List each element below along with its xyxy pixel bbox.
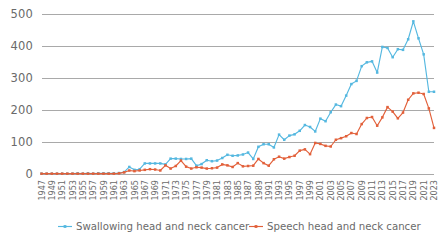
data-point-marker bbox=[216, 159, 219, 162]
data-point-marker bbox=[350, 132, 353, 135]
x-tick-label-1971: 1971 bbox=[161, 180, 171, 201]
data-point-marker bbox=[283, 139, 286, 142]
data-point-marker bbox=[350, 83, 353, 86]
data-point-marker bbox=[175, 157, 178, 160]
data-point-marker bbox=[242, 153, 245, 156]
data-point-marker bbox=[402, 49, 405, 52]
data-point-marker bbox=[340, 105, 343, 108]
x-tick-label-1951: 1951 bbox=[57, 180, 67, 201]
data-point-marker bbox=[335, 139, 338, 142]
x-tick-label-1955: 1955 bbox=[78, 180, 88, 201]
data-point-marker bbox=[45, 172, 48, 175]
data-point-marker bbox=[386, 47, 389, 50]
data-point-marker bbox=[422, 93, 425, 96]
data-point-marker bbox=[180, 159, 183, 162]
data-point-marker bbox=[293, 133, 296, 136]
data-point-marker bbox=[278, 133, 281, 136]
data-point-marker bbox=[149, 162, 152, 165]
chart-legend[interactable]: Swallowing head and neck cancerSpeech he… bbox=[58, 221, 421, 232]
x-tick-label-2021: 2021 bbox=[419, 180, 429, 201]
data-point-marker bbox=[407, 38, 410, 41]
x-tick-label-2015: 2015 bbox=[388, 180, 398, 201]
data-point-marker bbox=[144, 162, 147, 165]
data-point-marker bbox=[360, 123, 363, 126]
x-tick-label-2005: 2005 bbox=[336, 180, 346, 201]
data-point-marker bbox=[257, 158, 260, 161]
legend-label-speech[interactable]: Speech head and neck cancer bbox=[267, 221, 421, 232]
data-point-marker bbox=[309, 126, 312, 128]
data-point-marker bbox=[366, 117, 369, 120]
data-point-marker bbox=[273, 146, 276, 149]
data-point-marker bbox=[267, 143, 270, 146]
y-tick-label-200: 200 bbox=[10, 103, 33, 117]
data-point-marker bbox=[304, 124, 307, 127]
data-point-marker bbox=[376, 124, 379, 127]
x-tick-label-1979: 1979 bbox=[202, 180, 212, 201]
data-point-marker bbox=[128, 166, 131, 169]
data-point-marker bbox=[247, 151, 250, 154]
data-point-marker bbox=[221, 157, 224, 160]
data-point-marker bbox=[288, 134, 291, 137]
data-point-marker bbox=[175, 165, 178, 168]
data-point-marker bbox=[288, 156, 291, 159]
data-point-marker bbox=[102, 172, 105, 175]
data-point-marker bbox=[397, 117, 400, 120]
x-tick-label-2019: 2019 bbox=[408, 180, 418, 201]
x-tick-label-1965: 1965 bbox=[130, 180, 140, 201]
data-point-marker bbox=[113, 172, 116, 175]
data-point-marker bbox=[252, 158, 255, 161]
data-point-marker bbox=[164, 164, 167, 167]
x-tick-label-2023: 2023 bbox=[429, 180, 439, 201]
data-point-marker bbox=[61, 172, 64, 175]
data-point-marker bbox=[319, 143, 322, 146]
data-point-marker bbox=[149, 168, 152, 171]
legend-label-swallowing[interactable]: Swallowing head and neck cancer bbox=[76, 221, 250, 232]
data-series bbox=[40, 20, 435, 175]
data-point-marker bbox=[428, 91, 431, 94]
x-tick-label-1977: 1977 bbox=[192, 180, 202, 201]
data-point-marker bbox=[314, 130, 317, 133]
data-point-marker bbox=[226, 154, 229, 157]
data-point-marker bbox=[226, 164, 229, 167]
data-point-marker bbox=[412, 20, 415, 23]
data-point-marker bbox=[144, 169, 147, 172]
data-point-marker bbox=[206, 159, 209, 162]
data-point-marker bbox=[376, 71, 379, 74]
y-tick-label-100: 100 bbox=[10, 135, 33, 149]
data-point-marker bbox=[428, 107, 431, 110]
data-point-marker bbox=[329, 145, 332, 148]
data-point-marker bbox=[211, 167, 214, 170]
series-swallowing bbox=[40, 20, 435, 175]
series-line bbox=[42, 93, 435, 174]
data-point-marker bbox=[128, 169, 131, 172]
data-point-marker bbox=[247, 165, 250, 168]
x-tick-label-2003: 2003 bbox=[326, 180, 336, 201]
data-point-marker bbox=[433, 127, 436, 130]
line-chart-container: 0100200300400500 19471949195119531955195… bbox=[0, 0, 442, 235]
data-point-marker bbox=[190, 167, 193, 170]
data-point-marker bbox=[304, 148, 307, 151]
y-tick-label-400: 400 bbox=[10, 39, 33, 53]
data-point-marker bbox=[314, 142, 317, 145]
x-tick-label-1969: 1969 bbox=[150, 180, 160, 201]
y-tick-label-0: 0 bbox=[25, 167, 33, 181]
x-tick-label-1953: 1953 bbox=[68, 180, 78, 201]
x-tick-label-2007: 2007 bbox=[346, 180, 356, 201]
data-point-marker bbox=[335, 103, 338, 106]
data-point-marker bbox=[355, 133, 358, 136]
data-point-marker bbox=[340, 137, 343, 140]
x-tick-label-2011: 2011 bbox=[367, 180, 377, 201]
x-tick-label-1987: 1987 bbox=[243, 180, 253, 201]
data-point-marker bbox=[417, 91, 420, 94]
data-point-marker bbox=[309, 153, 312, 156]
data-point-marker bbox=[407, 99, 410, 102]
data-point-marker bbox=[381, 46, 384, 49]
data-point-marker bbox=[82, 172, 85, 175]
data-point-marker bbox=[66, 172, 69, 175]
x-tick-label-2001: 2001 bbox=[315, 180, 325, 201]
x-tick-label-1967: 1967 bbox=[140, 180, 150, 201]
series-line bbox=[42, 21, 435, 173]
x-tick-label-1989: 1989 bbox=[254, 180, 264, 201]
data-point-marker bbox=[386, 106, 389, 109]
data-point-marker bbox=[231, 166, 234, 169]
